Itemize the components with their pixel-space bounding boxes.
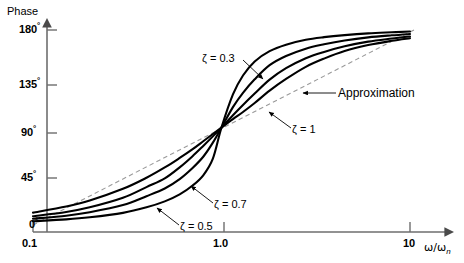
y-tick-label-135: 135° [19,79,40,90]
curve-label-zeta-05: ζ = 0.5 [180,221,213,232]
y-tick-label-0: 0° [29,219,38,230]
phase-response-chart: Phase 180° 135° 90° 45° 0° 0.1 1.0 10 ω/… [0,0,464,263]
curve-label-zeta-1: ζ = 1 [292,124,316,135]
leader-zeta-1 [269,112,291,128]
y-tick-label-45: 45° [21,172,36,183]
x-axis [33,222,446,232]
y-axis-title: Phase [7,6,38,17]
x-tick-label-0p1: 0.1 [22,238,37,249]
curve-label-zeta-03: ζ = 0.3 [202,53,235,64]
y-axis [47,26,57,232]
chart-canvas [0,0,464,263]
x-tick-label-10: 10 [403,238,415,249]
x-axis-title: ω/ωn [424,242,451,253]
y-tick-label-90: 90° [21,127,36,138]
y-tick-label-180: 180° [19,24,40,35]
x-tick-label-1p0: 1.0 [213,238,228,249]
curve-label-approximation: Approximation [338,87,415,99]
leader-zeta-05 [157,208,179,225]
curve-label-zeta-07: ζ = 0.7 [214,199,247,210]
leader-zeta-07 [191,186,213,203]
